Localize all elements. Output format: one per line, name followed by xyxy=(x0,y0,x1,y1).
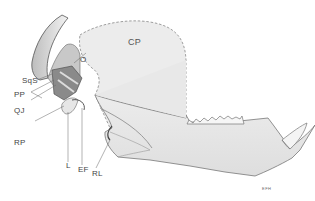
label-qj: QJ xyxy=(14,107,25,115)
mandible-illustration: CP O SqS PP QJ RP L EF RL EFH xyxy=(0,0,315,201)
label-cp: CP xyxy=(128,38,141,47)
label-ef: EF xyxy=(78,166,89,174)
label-pp: PP xyxy=(14,91,25,99)
label-rp: RP xyxy=(14,139,26,147)
teeth xyxy=(187,116,244,124)
label-rl: RL xyxy=(92,170,103,178)
retroarticular-process xyxy=(62,98,78,114)
label-o: O xyxy=(80,56,86,64)
mandible-drawing xyxy=(0,0,315,201)
artist-signature: EFH xyxy=(262,186,272,191)
label-sqs: SqS xyxy=(22,77,38,85)
label-l: L xyxy=(66,162,71,170)
jaw-body xyxy=(95,95,315,176)
